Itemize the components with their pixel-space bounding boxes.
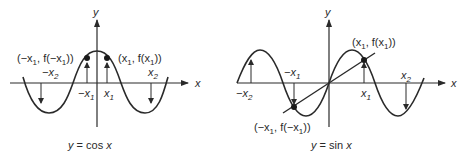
sin-point-neg-x1-label: (−x1, f(−x1)) bbox=[254, 121, 311, 136]
sin-point-x1 bbox=[361, 57, 367, 63]
sin-y-axis-label: y bbox=[324, 6, 332, 18]
cos-graph: x y (−x1, f(−x1)) (x1, f(x1)) −x1 x1 −x2… bbox=[10, 6, 201, 151]
cos-tick-neg-x1: −x1 bbox=[78, 87, 94, 102]
sin-point-x1-label: (x1, f(x1)) bbox=[352, 36, 396, 51]
sin-tick-neg-x2: −x2 bbox=[236, 87, 253, 102]
cos-point-neg-x1-label: (−x1, f(−x1)) bbox=[17, 52, 74, 67]
sin-graph: x y (x1, f(x1)) (−x1, f(−x1)) −x1 x1 −x2… bbox=[236, 6, 457, 151]
sin-point-neg-x1 bbox=[291, 104, 297, 110]
sin-tick-neg-x1: −x1 bbox=[284, 66, 300, 81]
sin-tick-x2: x2 bbox=[400, 69, 412, 84]
cos-point-x1-label: (x1, f(x1)) bbox=[118, 52, 162, 67]
cos-tick-x1: x1 bbox=[103, 87, 114, 102]
cos-point-x1 bbox=[104, 55, 110, 61]
even-odd-diagram: x y (−x1, f(−x1)) (x1, f(x1)) −x1 x1 −x2… bbox=[0, 0, 465, 163]
sin-x-axis-label: x bbox=[450, 77, 457, 89]
cos-point-neg-x1 bbox=[84, 55, 90, 61]
cos-caption: y = cos x bbox=[67, 139, 112, 151]
sin-tick-x1: x1 bbox=[360, 87, 371, 102]
cos-x-axis-label: x bbox=[194, 77, 201, 89]
cos-tick-x2: x2 bbox=[147, 66, 159, 81]
cos-y-axis-label: y bbox=[92, 6, 100, 18]
cos-tick-neg-x2: −x2 bbox=[42, 66, 59, 81]
sin-caption: y = sin x bbox=[310, 139, 352, 151]
